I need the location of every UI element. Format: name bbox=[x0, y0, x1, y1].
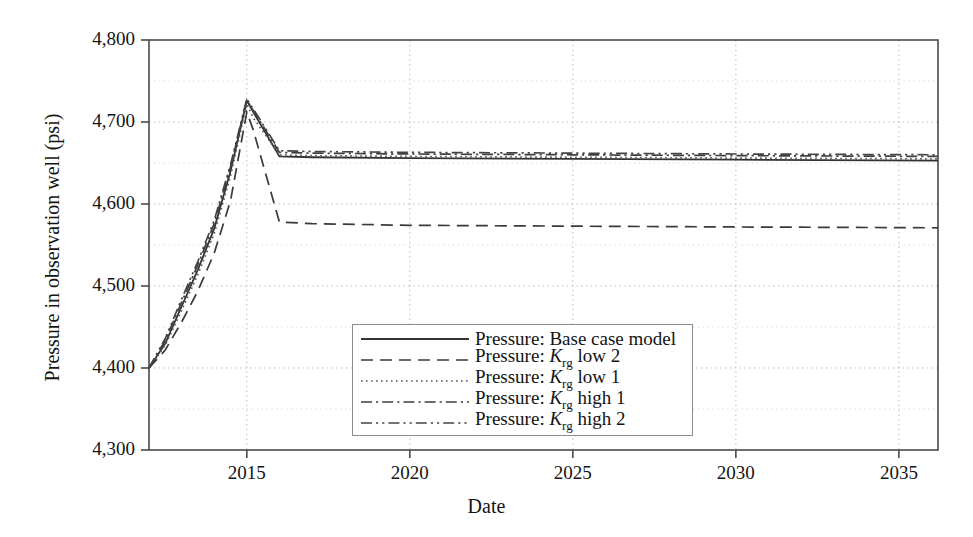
chart-figure: 4,3004,4004,5004,6004,7004,800 201520202… bbox=[0, 0, 973, 537]
chart-plot-area bbox=[0, 0, 973, 537]
legend-line-sample bbox=[359, 413, 471, 433]
legend-item-label: Pressure: Krg high 2 bbox=[475, 409, 625, 436]
x-tick-label: 2035 bbox=[859, 462, 939, 484]
x-tick-label: 2015 bbox=[207, 462, 287, 484]
legend-line-sample bbox=[359, 392, 471, 412]
x-tick-label: 2020 bbox=[370, 462, 450, 484]
y-axis-title: Pressure in observation well (psi) bbox=[41, 48, 64, 448]
x-tick-label: 2030 bbox=[696, 462, 776, 484]
x-axis-title: Date bbox=[0, 495, 973, 518]
legend-line-sample bbox=[359, 329, 471, 349]
legend-line-sample bbox=[359, 350, 471, 370]
chart-legend: Pressure: Base case modelPressure: Krg l… bbox=[352, 324, 693, 436]
legend-item-4[interactable]: Pressure: Krg high 2 bbox=[353, 412, 692, 433]
x-tick-label: 2025 bbox=[533, 462, 613, 484]
legend-line-sample bbox=[359, 371, 471, 391]
